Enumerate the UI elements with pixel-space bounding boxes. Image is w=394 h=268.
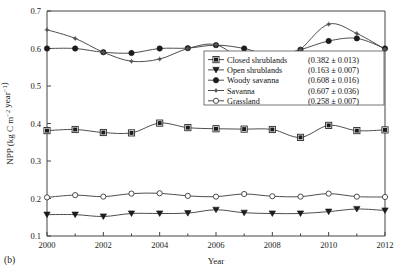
- legend-label: Grassland: [227, 97, 260, 106]
- legend-value: (0.382 ± 0.013): [308, 56, 359, 65]
- data-point: [382, 127, 388, 133]
- data-point: [101, 194, 106, 199]
- series-grassland: [44, 191, 387, 200]
- data-point: [129, 191, 134, 196]
- y-axis-tick-labels: 0.10.20.30.40.50.60.7: [30, 6, 41, 241]
- legend-label: Closed shrublands: [227, 56, 287, 65]
- legend-marker: [213, 57, 219, 63]
- data-point: [73, 36, 78, 41]
- data-point: [354, 36, 359, 41]
- data-point: [185, 193, 190, 198]
- legend-label: Savanna: [227, 87, 255, 96]
- legend-value: (0.163 ± 0.007): [308, 66, 359, 75]
- data-point: [44, 128, 50, 134]
- x-tick-label: 2006: [208, 240, 225, 250]
- data-point: [241, 126, 247, 132]
- chart-canvas: 2000200220042006200820102012 0.10.20.30.…: [0, 0, 394, 268]
- y-axis-title-text: NPP (kg C m−2 year−1): [0, 82, 15, 164]
- x-tick-label: 2002: [95, 240, 112, 250]
- data-point: [129, 59, 134, 64]
- data-point: [326, 122, 332, 128]
- y-tick-label: 0.3: [30, 156, 41, 166]
- data-point: [213, 194, 218, 199]
- y-tick-label: 0.6: [30, 44, 41, 54]
- legend-value: (0.258 ± 0.007): [308, 97, 359, 106]
- legend-item[interactable]: Closed shrublands(0.382 ± 0.013): [208, 56, 359, 65]
- legend-label: Open shrublands: [227, 66, 282, 75]
- x-tick-label: 2010: [320, 240, 337, 250]
- data-point: [128, 130, 134, 136]
- panel-label: (b): [4, 255, 15, 266]
- data-point: [157, 57, 162, 62]
- data-point: [157, 46, 162, 51]
- x-tick-label: 2008: [264, 240, 281, 250]
- data-point: [326, 191, 331, 196]
- data-point: [270, 194, 275, 199]
- data-point: [185, 125, 191, 131]
- x-axis-tick-labels: 2000200220042006200820102012: [39, 240, 394, 250]
- npp-line-chart-figure: 2000200220042006200820102012 0.10.20.30.…: [0, 0, 394, 268]
- data-point: [157, 191, 162, 196]
- legend-marker: [213, 78, 218, 83]
- chart-legend: Closed shrublands(0.382 ± 0.013)Open shr…: [204, 51, 384, 106]
- data-point: [129, 50, 134, 55]
- x-tick-label: 2012: [377, 240, 394, 250]
- series-open-shrublands: [44, 206, 388, 219]
- x-tick-label: 2000: [39, 240, 56, 250]
- data-point: [72, 46, 77, 51]
- data-point: [354, 31, 359, 36]
- data-point: [45, 27, 50, 32]
- y-tick-label: 0.5: [30, 81, 41, 91]
- legend-value: (0.607 ± 0.036): [308, 87, 359, 96]
- y-tick-label: 0.4: [30, 119, 41, 129]
- data-point: [382, 194, 387, 199]
- y-axis-ticks: [47, 11, 51, 236]
- x-axis-ticks: [47, 232, 385, 236]
- series-closed-shrublands: [44, 120, 388, 140]
- data-point: [326, 38, 331, 43]
- data-point: [326, 22, 331, 27]
- legend-label: Woody savanna: [227, 76, 279, 85]
- data-point: [242, 191, 247, 196]
- data-point: [297, 134, 303, 140]
- y-tick-label: 0.2: [30, 194, 41, 204]
- data-point: [44, 195, 49, 200]
- data-point: [157, 120, 163, 126]
- y-tick-label: 0.7: [30, 6, 41, 16]
- data-point: [72, 126, 78, 132]
- y-tick-label: 0.1: [30, 231, 41, 241]
- data-point: [354, 128, 360, 134]
- data-point: [100, 129, 106, 135]
- data-point: [213, 126, 219, 132]
- data-point: [241, 46, 246, 51]
- legend-value: (0.608 ± 0.016): [308, 76, 359, 85]
- x-axis-title: Year: [208, 256, 225, 266]
- data-point: [44, 46, 49, 51]
- data-point: [73, 193, 78, 198]
- data-point: [269, 126, 275, 132]
- x-tick-label: 2004: [151, 240, 169, 250]
- y-axis-title: NPP (kg C m−2 year−1): [0, 82, 15, 164]
- data-point: [354, 194, 359, 199]
- data-point: [298, 194, 303, 199]
- legend-marker: [213, 98, 218, 103]
